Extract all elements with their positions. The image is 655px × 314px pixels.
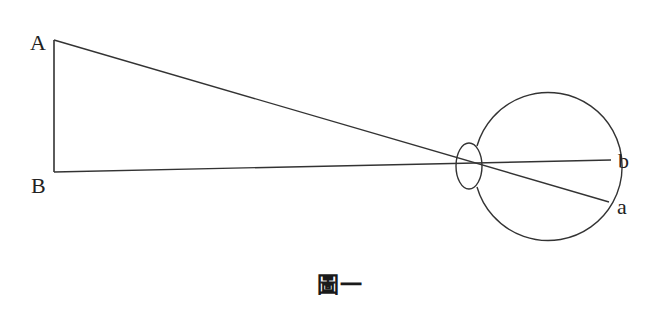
ray-a — [54, 40, 609, 202]
label-A: A — [30, 32, 46, 54]
label-b: b — [618, 150, 629, 172]
eyeball-outline — [477, 92, 622, 240]
label-a: a — [617, 196, 627, 218]
ray-b — [54, 160, 611, 172]
label-B: B — [31, 175, 46, 197]
figure-caption: 圖一 — [305, 266, 375, 298]
lens — [456, 143, 482, 189]
eye-diagram: A B b a 圖一 — [0, 0, 655, 314]
